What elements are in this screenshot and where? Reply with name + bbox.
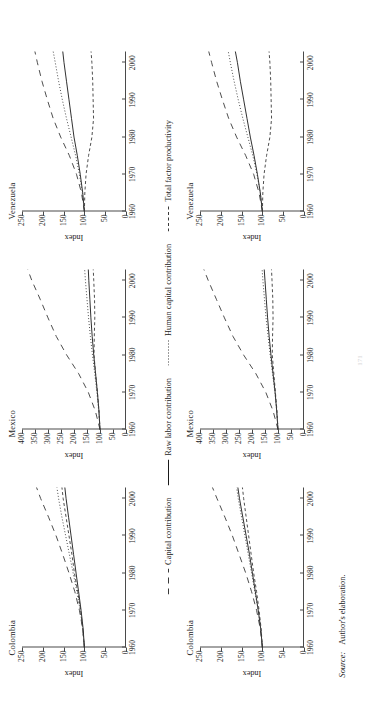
legend-label: Raw labor contribution: [164, 377, 173, 455]
solid-line-icon: [165, 459, 172, 485]
x-axis-tick-label: 1980: [307, 129, 315, 144]
x-axis-tick-label: 2000: [129, 273, 137, 288]
x-axis-tick-label: 1990: [129, 92, 137, 107]
legend-item-total-factor-productivity: Total factor productivity: [164, 120, 173, 232]
x-axis-tick-label: 1980: [307, 347, 315, 362]
y-axis-tick-label: 350: [31, 432, 39, 443]
panel-title: Mexico: [185, 410, 195, 437]
y-axis-tick-label: 150: [83, 432, 91, 443]
panel-mexico-bottom: Mexico 050100150200250300350400196019701…: [186, 263, 326, 459]
y-axis-tick-label: 350: [209, 432, 217, 443]
long-dash-line-icon: [165, 568, 172, 594]
series-line: [62, 487, 84, 647]
y-axis-tick-label: 50: [101, 214, 109, 222]
y-axis-tick-label: 200: [39, 214, 47, 225]
short-dash-line-icon: [165, 205, 172, 231]
source-text: Author's elaboration.: [338, 574, 347, 644]
y-axis-tick-label: 250: [18, 650, 26, 661]
y-axis-tick-label: 400: [18, 432, 26, 443]
x-axis-tick-label: 1980: [129, 347, 137, 362]
series-canvas: [200, 487, 304, 647]
series-line: [237, 487, 263, 647]
panel-title: Colombia: [185, 620, 195, 656]
multi-panel-figure: Colombia 0501001502002501960197019801990…: [0, 0, 370, 719]
series-line: [84, 51, 93, 211]
y-axis-tick-label: 100: [81, 650, 89, 661]
figure-legend: Capital contribution Raw labor contribut…: [160, 37, 176, 677]
y-axis-tick-label: 50: [287, 432, 295, 440]
figure-page: Colombia 0501001502002501960197019801990…: [0, 0, 370, 719]
y-axis-tick-label: 300: [44, 432, 52, 443]
y-axis-tick-label: 250: [196, 650, 204, 661]
series-line: [212, 487, 262, 647]
x-axis-tick-label: 2000: [307, 55, 315, 70]
y-axis-tick-label: 300: [222, 432, 230, 443]
y-axis-tick-label: 150: [238, 650, 246, 661]
x-axis-tick-label: 1970: [307, 166, 315, 181]
y-axis-tick-label: 200: [217, 650, 225, 661]
y-axis-label: Index: [65, 451, 84, 460]
x-axis-tick-label: 1970: [307, 384, 315, 399]
panel-row-bottom: Colombia 0501001502002501960197019801990…: [186, 37, 326, 677]
y-axis-tick-label: 50: [101, 650, 109, 658]
series-canvas: [22, 51, 126, 211]
legend-label: Human capital contribution: [164, 243, 173, 335]
series-line: [262, 51, 271, 211]
y-axis-tick-label: 150: [60, 650, 68, 661]
source-note: Source:Author's elaboration.: [338, 574, 347, 677]
series-line: [93, 269, 100, 429]
y-axis-label: Index: [243, 451, 262, 460]
plot-area: 05010015020025019601970198019902000Index: [22, 487, 126, 647]
legend-item-capital-contribution: Capital contribution: [164, 497, 173, 594]
y-axis-tick-label: 250: [18, 214, 26, 225]
x-axis-tick-label: 1960: [129, 421, 137, 436]
legend-item-raw-labor-contribution: Raw labor contribution: [164, 377, 173, 485]
x-axis-tick-label: 1960: [307, 421, 315, 436]
legend-label: Total factor productivity: [164, 120, 173, 202]
plot-area: 05010015020025019601970198019902000Index: [200, 51, 304, 211]
source-label: Source:: [338, 651, 347, 677]
y-axis-tick-label: 100: [96, 432, 104, 443]
plot-area: 0501001502002503003504001960197019801990…: [200, 269, 304, 429]
x-axis-tick-label: 1960: [129, 639, 137, 654]
x-axis-tick-label: 1970: [307, 602, 315, 617]
y-axis-label: Index: [65, 669, 84, 678]
y-axis-tick-label: 200: [248, 432, 256, 443]
y-axis-tick-label: 150: [261, 432, 269, 443]
x-axis-tick-label: 1980: [129, 565, 137, 580]
y-axis-tick-label: 200: [70, 432, 78, 443]
y-axis-tick-label: 100: [259, 650, 267, 661]
series-line: [209, 51, 263, 211]
y-axis-tick-label: 100: [274, 432, 282, 443]
y-axis-label: Index: [243, 233, 262, 242]
plot-area: 0501001502002503003504001960197019801990…: [22, 269, 126, 429]
plot-area: 05010015020025019601970198019902000Index: [22, 51, 126, 211]
y-axis-tick-label: 50: [109, 432, 117, 440]
plot-area: 05010015020025019601970198019902000Index: [200, 487, 304, 647]
page-number: 171: [356, 355, 364, 366]
y-axis-tick-label: 250: [235, 432, 243, 443]
y-axis-tick-label: 150: [60, 214, 68, 225]
rotated-page-wrapper: Colombia 0501001502002501960197019801990…: [0, 0, 370, 719]
x-axis-tick-label: 1980: [307, 565, 315, 580]
x-axis-tick-label: 1990: [307, 310, 315, 325]
panel-title: Mexico: [7, 410, 17, 437]
y-axis-tick-label: 50: [279, 214, 287, 222]
panel-venezuela-top: Venezuela 050100150200250196019701980199…: [8, 45, 148, 241]
panel-title: Venezuela: [7, 182, 17, 219]
legend-label: Capital contribution: [164, 497, 173, 564]
x-axis-tick-label: 1990: [307, 528, 315, 543]
x-axis-tick-label: 1990: [129, 310, 137, 325]
y-axis-label: Index: [243, 669, 262, 678]
series-line: [85, 269, 100, 429]
panel-title: Colombia: [7, 620, 17, 656]
y-axis-label: Index: [65, 233, 84, 242]
x-axis-tick-label: 1960: [307, 203, 315, 218]
series-line: [57, 487, 84, 647]
legend-item-human-capital-contribution: Human capital contribution: [164, 243, 173, 365]
series-canvas: [22, 269, 126, 429]
y-axis-tick-label: 250: [57, 432, 65, 443]
panel-row-top: Colombia 0501001502002501960197019801990…: [8, 37, 148, 677]
panel-colombia-bottom: Colombia 0501001502002501960197019801990…: [186, 481, 326, 677]
x-axis-tick-label: 1970: [129, 384, 137, 399]
